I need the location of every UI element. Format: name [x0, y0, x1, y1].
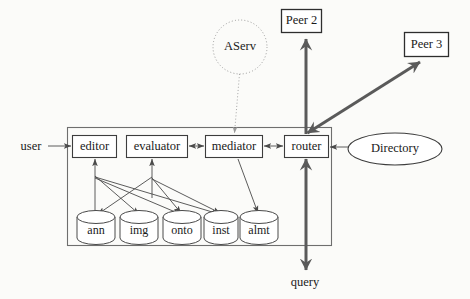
editor-to-inst-link	[95, 177, 219, 214]
router-peer3-link	[308, 62, 421, 133]
editor-to-img-link	[95, 176, 139, 214]
peer3-label: Peer 3	[411, 37, 443, 51]
aserv-to-mediator-connector	[235, 74, 240, 133]
evaluator-label: evaluator	[134, 139, 181, 153]
mediator-to-almt-link	[238, 159, 258, 213]
datastore-img-label: img	[130, 223, 149, 237]
datastore-ann-label: ann	[87, 223, 104, 237]
directory-label: Directory	[371, 141, 420, 155]
evaluator-to-inst-link	[152, 179, 220, 213]
architecture-diagram: AServ Peer 2 Peer 3 Directory editor eva…	[0, 0, 470, 299]
datastore-almt-label: almt	[248, 223, 270, 237]
editor-label: editor	[80, 139, 110, 153]
datastore-onto-label: onto	[171, 223, 192, 237]
mediator-label: mediator	[212, 139, 257, 153]
query-label: query	[291, 275, 320, 289]
peer2-label: Peer 2	[286, 13, 318, 27]
datastore-inst-label: inst	[212, 223, 230, 237]
user-label: user	[21, 139, 43, 153]
router-label: router	[292, 139, 323, 153]
aserv-label: AServ	[224, 39, 257, 53]
diagram-canvas: AServ Peer 2 Peer 3 Directory editor eva…	[0, 0, 470, 299]
